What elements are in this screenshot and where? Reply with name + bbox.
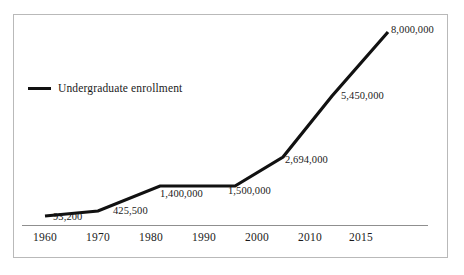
legend-line-swatch-icon — [28, 87, 51, 90]
chart-screenshot: Undergraduate enrollment 1960 1970 1980 … — [0, 0, 464, 275]
data-label-2000: 2,694,000 — [285, 154, 328, 165]
x-axis-tick-1960: 1960 — [33, 231, 57, 243]
data-label-1970: 425,500 — [113, 205, 148, 216]
x-axis-tick-1970: 1970 — [86, 231, 110, 243]
data-label-2010: 5,450,000 — [341, 90, 384, 101]
legend-series-label: Undergraduate enrollment — [58, 82, 182, 94]
x-axis-tick-2000: 2000 — [245, 231, 269, 243]
chart-legend: Undergraduate enrollment — [28, 82, 182, 94]
data-label-2015: 8,000,000 — [391, 24, 434, 35]
data-label-1990: 1,500,000 — [228, 185, 271, 196]
data-label-1980: 1,400,000 — [160, 188, 203, 199]
data-label-1960: 93,200 — [53, 211, 82, 222]
x-axis-tick-2010: 2010 — [298, 231, 322, 243]
x-axis-tick-1980: 1980 — [139, 231, 163, 243]
x-axis-tick-1990: 1990 — [192, 231, 216, 243]
x-axis-tick-2015: 2015 — [349, 231, 373, 243]
